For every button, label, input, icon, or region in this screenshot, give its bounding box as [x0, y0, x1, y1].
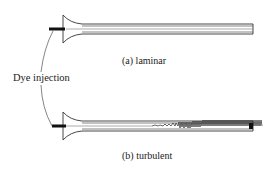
caption-turbulent: (b) turbulent	[122, 151, 172, 161]
caption-laminar: (a) laminar	[122, 56, 166, 66]
dye-injector-b	[52, 125, 66, 128]
reynolds-experiment-diagram: Dye injection (a) laminar (b) turbulent	[0, 0, 270, 170]
dye-injection-label: Dye injection	[13, 73, 70, 84]
diagram-canvas	[0, 0, 270, 170]
dye-injector-a	[49, 28, 65, 31]
